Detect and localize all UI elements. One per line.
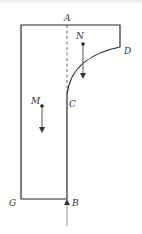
label-m: M: [30, 96, 41, 106]
track-outline: [21, 25, 120, 199]
label-g: G: [9, 198, 16, 208]
label-d: D: [123, 46, 131, 56]
label-n: N: [75, 31, 85, 41]
track-diagram: A N D M C G B: [0, 0, 142, 234]
label-b: B: [71, 198, 79, 208]
label-c: C: [69, 99, 76, 109]
label-a: A: [63, 13, 71, 23]
